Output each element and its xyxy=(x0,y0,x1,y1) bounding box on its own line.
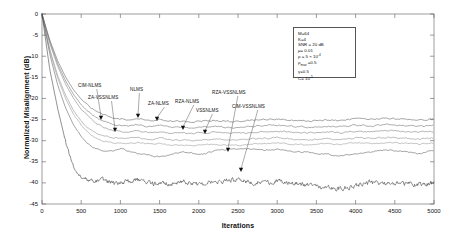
parameter-line-5: ρmax =0.5 xyxy=(298,60,355,68)
chart-figure: Normalized Misalignment (dB) Iterations … xyxy=(0,0,454,235)
x-tick-label: 1000 xyxy=(105,208,135,214)
series-line-cim-vssnlms xyxy=(42,14,434,191)
curve-label-rza-nlms: RZA-NLMS xyxy=(175,99,199,104)
parameter-line-7: C= 10-5 xyxy=(298,75,355,82)
x-tick-label: 3500 xyxy=(301,208,331,214)
series-line-za-nlms xyxy=(42,14,433,128)
parameters-box: M=64K=4SNR = 20 dBμ= 0.01ρ = 5 × 10-4ρma… xyxy=(293,27,356,78)
x-tick-label: 0 xyxy=(27,208,57,214)
series-line-za-vssnlms xyxy=(42,14,433,141)
x-tick-label: 500 xyxy=(66,208,96,214)
x-tick-label: 4500 xyxy=(380,208,410,214)
y-tick-label: -30 xyxy=(20,137,38,143)
y-tick-label: -15 xyxy=(20,74,38,80)
annotation-arrowhead xyxy=(181,126,185,130)
y-tick-label: -45 xyxy=(20,201,38,207)
x-tick-label: 2000 xyxy=(184,208,214,214)
annotation-leader-line xyxy=(138,93,139,115)
annotation-leader-line xyxy=(205,114,212,131)
curve-label-za-vssnlms: ZA-VSSNLMS xyxy=(88,95,118,100)
curve-label-rza-vssnlms: RZA-VSSNLMS xyxy=(212,90,246,95)
curve-label-vssnlms: VSSNLMS xyxy=(196,108,219,113)
y-tick-label: -5 xyxy=(20,32,38,38)
y-tick-label: -40 xyxy=(20,179,38,185)
annotation-arrowhead xyxy=(136,114,140,118)
annotation-leader-line xyxy=(157,107,164,118)
x-tick-label: 2500 xyxy=(223,208,253,214)
x-tick-label: 4000 xyxy=(341,208,371,214)
curve-label-nlms: NLMS xyxy=(130,87,143,92)
x-axis-title: Iterations xyxy=(42,222,434,229)
y-tick-label: -20 xyxy=(20,95,38,101)
parameter-line-4: ρ = 5 × 10-4 xyxy=(298,53,355,60)
y-tick-label: -35 xyxy=(20,158,38,164)
annotation-arrowhead xyxy=(113,128,117,132)
y-tick-label: -10 xyxy=(20,53,38,59)
curve-label-za-nlms: ZA-NLMS xyxy=(148,101,169,106)
x-tick-label: 1500 xyxy=(145,208,175,214)
x-tick-label: 3000 xyxy=(262,208,292,214)
annotation-leader-line xyxy=(183,105,194,127)
y-tick-label: -25 xyxy=(20,116,38,122)
curve-label-cim-nlms: CIM-NLMS xyxy=(78,83,102,88)
y-tick-label: 0 xyxy=(20,11,38,17)
annotation-arrowhead xyxy=(239,168,243,172)
curve-label-cim-vssnlms: CIM-VSSNLMS xyxy=(232,104,265,109)
chart-plot-area xyxy=(0,0,454,235)
x-tick-label: 5000 xyxy=(419,208,449,214)
